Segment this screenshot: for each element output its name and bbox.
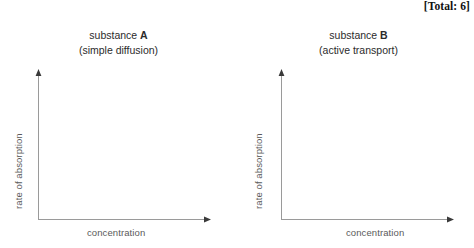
graph-caption-b-letter: B (380, 29, 388, 41)
y-axis-label-substance-b: rate of absorption (253, 133, 264, 209)
graph-caption-a-subtitle: (simple diffusion) (0, 43, 237, 58)
graph-panel-substance-a: substance A (simple diffusion) rate of a… (0, 0, 237, 248)
graph-caption-b-prefix: substance (329, 29, 380, 41)
y-axis-label-substance-a: rate of absorption (13, 133, 24, 209)
x-axis-label-substance-a: concentration (87, 227, 145, 238)
plot-area-substance-a[interactable] (39, 71, 211, 220)
plot-area-substance-b[interactable] (282, 71, 454, 220)
x-axis-label-substance-b: concentration (346, 227, 404, 238)
graph-caption-a-letter: A (140, 29, 148, 41)
graph-caption-b-subtitle: (active transport) (243, 43, 474, 58)
graph-caption-a-prefix: substance (89, 29, 140, 41)
graph-axes-substance-a (30, 62, 220, 230)
graph-caption-substance-b: substance B (active transport) (243, 28, 474, 57)
graph-axes-substance-b (273, 62, 463, 230)
graph-panel-substance-b: substance B (active transport) rate of a… (243, 0, 474, 248)
graph-caption-substance-a: substance A (simple diffusion) (0, 28, 237, 57)
